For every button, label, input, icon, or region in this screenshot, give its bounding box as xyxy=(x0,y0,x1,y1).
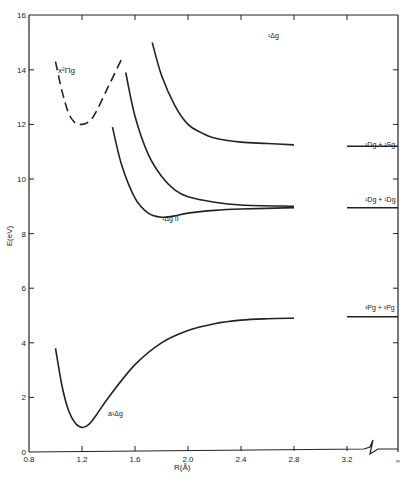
y-axis-label: E(eV) xyxy=(5,225,14,246)
x-axis-label: R(Å) xyxy=(174,463,191,472)
y-tick-label: 2 xyxy=(22,393,27,402)
asymptote-label-1: ¹Dg + ¹Sg xyxy=(365,141,395,149)
y-tick-label: 4 xyxy=(22,339,27,348)
tick-labels: 0.81.21.62.02.42.83.2∞0246810121416 xyxy=(17,11,400,464)
label-a1deltag: a¹Δg xyxy=(108,410,123,418)
label-x2pig: x²Πg xyxy=(58,66,75,75)
y-tick-label: 14 xyxy=(17,66,26,75)
asymptote-lines xyxy=(347,146,398,317)
x-axis-with-break xyxy=(29,440,398,454)
y-tick-label: 8 xyxy=(22,230,27,239)
curve--g-upper- xyxy=(152,43,294,145)
curve--g-middle- xyxy=(126,73,294,207)
axes xyxy=(29,15,398,454)
potential-energy-chart: 0.81.21.62.02.42.83.2∞0246810121416 R(Å)… xyxy=(0,0,412,483)
label-1deltag-upper: ¹Δg xyxy=(268,32,279,40)
asymptote-label-2: ¹Dg + ¹Dg xyxy=(365,196,396,204)
x-tick-label: ∞ xyxy=(396,458,400,464)
x-tick-label: 1.6 xyxy=(129,455,141,464)
x-tick-label: 3.2 xyxy=(341,455,353,464)
y-tick-label: 16 xyxy=(17,11,26,20)
tick-marks xyxy=(29,15,398,451)
curves xyxy=(56,43,295,428)
x-tick-label: 1.2 xyxy=(76,455,88,464)
x-tick-label: 2.4 xyxy=(235,455,247,464)
y-tick-label: 12 xyxy=(17,120,26,129)
y-tick-label: 0 xyxy=(22,448,27,457)
y-tick-label: 10 xyxy=(17,175,26,184)
y-tick-label: 6 xyxy=(22,284,27,293)
label-1deltag-II: ¹Δg II xyxy=(162,215,179,223)
curve--g-ii xyxy=(112,127,294,217)
asymptote-label-3: ³Pg + ³Pg xyxy=(365,304,395,312)
curve-a-g xyxy=(56,318,295,427)
x-tick-label: 2.8 xyxy=(288,455,300,464)
